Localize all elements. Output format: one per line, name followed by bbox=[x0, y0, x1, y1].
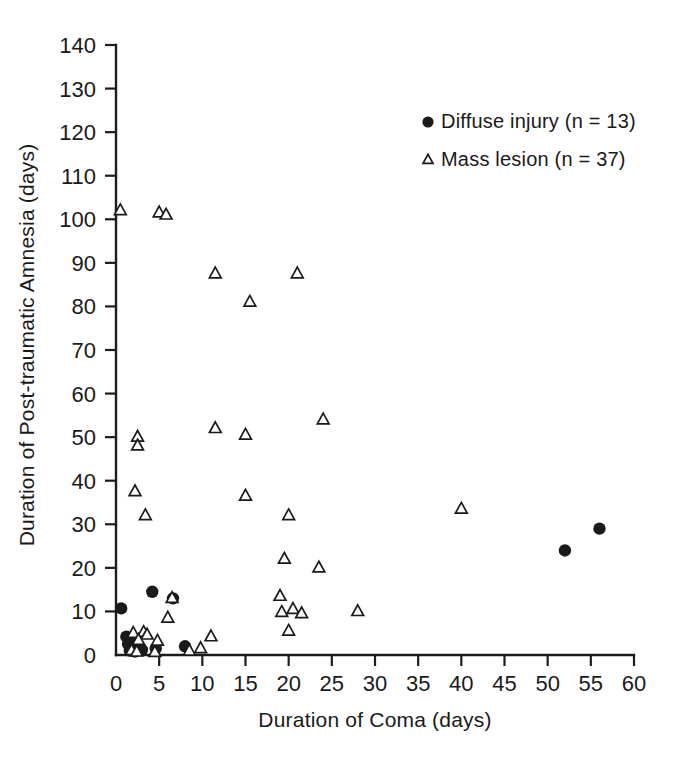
y-axis-tick-label: 110 bbox=[61, 164, 96, 189]
y-axis-tick-label: 90 bbox=[72, 251, 96, 276]
data-point-diffuse-injury bbox=[146, 586, 158, 598]
y-axis-tick-label: 120 bbox=[59, 120, 96, 145]
chart-canvas: 0102030405060708090100110120130140051015… bbox=[0, 0, 681, 762]
x-axis-tick-label: 5 bbox=[153, 671, 165, 696]
x-axis-tick-label: 60 bbox=[622, 671, 646, 696]
y-axis-tick-label: 20 bbox=[72, 556, 96, 581]
y-axis-tick-label: 30 bbox=[72, 512, 96, 537]
x-axis-title: Duration of Coma (days) bbox=[258, 708, 491, 731]
y-axis-tick-label: 0 bbox=[84, 643, 96, 668]
x-axis-tick-label: 40 bbox=[449, 671, 473, 696]
x-axis-tick-label: 55 bbox=[579, 671, 603, 696]
x-axis-tick-label: 0 bbox=[110, 671, 122, 696]
legend-label-diffuse-injury: Diffuse injury (n = 13) bbox=[441, 110, 636, 132]
x-axis-tick-label: 45 bbox=[492, 671, 516, 696]
legend-label-mass-lesion: Mass lesion (n = 37) bbox=[441, 148, 626, 170]
y-axis-tick-label: 40 bbox=[72, 469, 96, 494]
y-axis-tick-label: 140 bbox=[59, 33, 96, 58]
legend-marker-diffuse-injury bbox=[422, 116, 433, 127]
data-point-diffuse-injury bbox=[559, 544, 571, 556]
y-axis-tick-label: 50 bbox=[72, 425, 96, 450]
x-axis-tick-label: 25 bbox=[320, 671, 344, 696]
y-axis-tick-label: 130 bbox=[59, 77, 96, 102]
x-axis-tick-label: 50 bbox=[535, 671, 559, 696]
scatter-plot-figure: 0102030405060708090100110120130140051015… bbox=[0, 0, 681, 762]
x-axis-tick-label: 35 bbox=[406, 671, 430, 696]
y-axis-tick-label: 70 bbox=[72, 338, 96, 363]
x-axis-tick-label: 15 bbox=[233, 671, 257, 696]
x-axis-tick-label: 30 bbox=[363, 671, 387, 696]
data-point-diffuse-injury bbox=[115, 602, 127, 614]
data-point-diffuse-injury bbox=[593, 522, 605, 534]
x-axis-tick-label: 20 bbox=[276, 671, 300, 696]
y-axis-tick-label: 100 bbox=[59, 207, 96, 232]
y-axis-tick-label: 80 bbox=[72, 294, 96, 319]
y-axis-title: Duration of Post-traumatic Amnesia (days… bbox=[15, 144, 38, 547]
y-axis-tick-label: 60 bbox=[72, 382, 96, 407]
x-axis-tick-label: 10 bbox=[190, 671, 214, 696]
y-axis-tick-label: 10 bbox=[72, 599, 96, 624]
